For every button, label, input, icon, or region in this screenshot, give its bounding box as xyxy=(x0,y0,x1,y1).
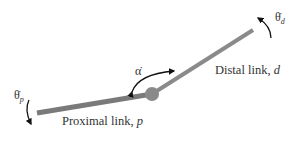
theta-d-label: θ̇d xyxy=(275,10,285,26)
distal-link-label: Distal link, d xyxy=(215,63,280,78)
joint xyxy=(145,87,159,101)
theta-d-sub: d xyxy=(281,17,285,26)
distal-link xyxy=(152,30,253,94)
proximal-link xyxy=(37,94,152,113)
theta-d-arrow-icon xyxy=(258,18,271,38)
theta-p-arrow-icon xyxy=(27,100,31,124)
proximal-link-label: Proximal link, p xyxy=(62,114,143,129)
distal-var: d xyxy=(274,63,280,77)
proximal-var: p xyxy=(137,114,143,128)
distal-text: Distal link, xyxy=(215,63,274,77)
theta-p-label: θ̇p xyxy=(14,88,24,104)
alpha-label: α̇ xyxy=(135,64,141,79)
theta-p-sub: p xyxy=(20,95,24,104)
alpha-symbol: α̇ xyxy=(135,64,141,78)
proximal-text: Proximal link, xyxy=(62,114,137,128)
